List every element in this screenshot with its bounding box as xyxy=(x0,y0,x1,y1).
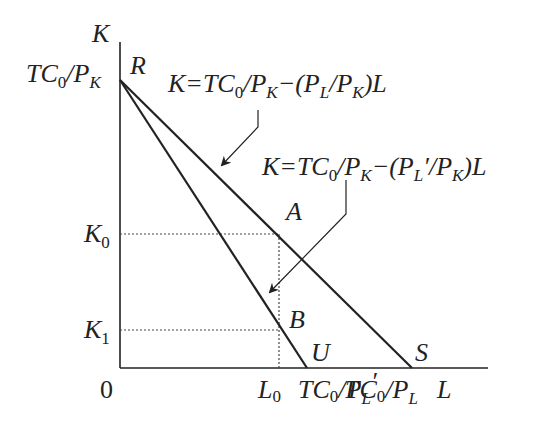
point-B: B xyxy=(289,305,305,334)
l0-label: L0 xyxy=(257,375,281,406)
y-intercept-label: TC0/PK xyxy=(26,59,102,92)
point-A: A xyxy=(284,197,302,226)
isocost-line-RU xyxy=(120,80,307,368)
point-R: R xyxy=(129,51,146,80)
isocost-line-RS xyxy=(120,80,412,368)
arrow-to-RS xyxy=(222,110,258,165)
y-axis-label: K xyxy=(91,19,111,48)
k0-label: K0 xyxy=(83,219,110,252)
point-S: S xyxy=(415,338,428,367)
x-axis-label: L xyxy=(436,375,451,404)
point-U: U xyxy=(311,338,332,367)
arrow-to-RU xyxy=(270,180,346,292)
equation-original: K=TC0/PK−(PL/PK)L xyxy=(167,69,387,102)
k1-label: K1 xyxy=(83,315,110,348)
budget-line-diagram: K L 0 TC0/PK K0 K1 L0 TC0/PL′ TC0/PL R A… xyxy=(0,0,537,422)
s-intercept: TC0/PL xyxy=(345,375,418,408)
origin-label: 0 xyxy=(100,375,113,404)
equation-new: K=TC0/PK−(PL′/PK)L xyxy=(261,152,486,185)
